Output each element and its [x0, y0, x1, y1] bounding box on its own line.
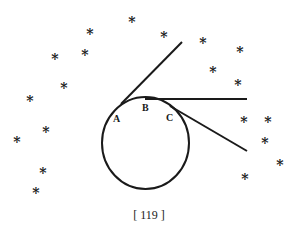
tangent-c-line — [170, 106, 247, 151]
star-icon: * — [234, 77, 242, 93]
stars-group: ******************** — [13, 14, 284, 201]
star-icon: * — [32, 185, 40, 201]
star-icon: * — [86, 26, 94, 42]
star-icon: * — [240, 114, 248, 130]
star-icon: * — [209, 64, 217, 80]
star-icon: * — [81, 47, 89, 63]
star-icon: * — [60, 80, 68, 96]
star-icon: * — [128, 14, 136, 30]
star-icon: * — [13, 134, 21, 150]
point-label-c: C — [166, 112, 173, 123]
tangent-a-line — [121, 42, 182, 104]
star-icon: * — [264, 114, 272, 130]
star-icon: * — [160, 29, 168, 45]
star-icon: * — [42, 124, 50, 140]
star-icon: * — [26, 93, 34, 109]
star-icon: * — [199, 35, 207, 51]
star-icon: * — [51, 51, 59, 67]
star-icon: * — [276, 157, 284, 173]
star-icon: * — [39, 165, 47, 181]
star-icon: * — [241, 171, 249, 187]
star-icon: * — [236, 44, 244, 60]
diagram-canvas: ******************** ABC [ 119 ] — [0, 0, 295, 235]
point-label-a: A — [113, 113, 121, 124]
page-number: [ 119 ] — [133, 208, 165, 222]
point-label-b: B — [142, 102, 149, 113]
star-icon: * — [261, 135, 269, 151]
